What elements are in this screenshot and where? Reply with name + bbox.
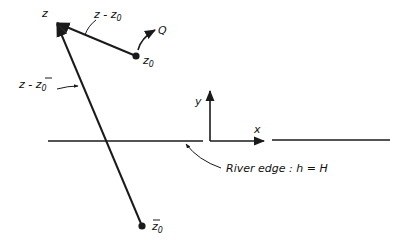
axis-y-label: y: [194, 95, 202, 108]
q-rotation-arrow: [138, 30, 155, 50]
axis-x-label: x: [253, 123, 261, 136]
label-river-edge: River edge : h = H: [226, 162, 328, 175]
label-z-minus-z0-main: z - z: [93, 8, 117, 21]
leader-river-edge: [186, 144, 221, 168]
label-z-minus-z0-sub: 0: [117, 14, 122, 23]
label-z-minus-zbar0: z - z0: [18, 78, 47, 93]
label-Q: Q: [158, 24, 167, 37]
diagram-canvas: y x z z - z0 z - z0 z0 Q z0 River edge :…: [0, 0, 412, 248]
leader-z-minus-zbar0: [57, 86, 78, 89]
label-zbar0: z0: [151, 220, 163, 235]
label-z-minus-zbar0-sub: 0: [42, 84, 47, 93]
point-z0: [132, 52, 139, 59]
point-zbar0: [138, 222, 145, 229]
label-z-minus-zbar0-main: z -: [18, 78, 36, 91]
label-z-minus-z0: z - z0: [93, 8, 122, 23]
label-zbar0-sub: 0: [158, 226, 163, 235]
label-z0-sub: 0: [149, 60, 154, 69]
label-z0: z0: [142, 54, 154, 69]
label-z: z: [41, 7, 48, 20]
leader-z-minus-z0: [85, 20, 96, 35]
vector-zbar0-to-z: [57, 24, 142, 226]
